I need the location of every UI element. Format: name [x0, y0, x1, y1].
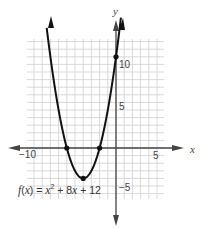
- point-root: [97, 145, 102, 150]
- y-tick-neg5: −5: [119, 183, 130, 193]
- curve-arrowheads: [48, 16, 125, 30]
- y-tick-5: 5: [119, 102, 125, 112]
- x-tick-5: 5: [153, 151, 159, 161]
- grid: [27, 39, 164, 199]
- x-axis-label: x: [190, 144, 195, 155]
- y-axis-label: y: [113, 6, 118, 17]
- point-y-intercept: [113, 54, 118, 59]
- point-vertex: [81, 176, 86, 181]
- graph: [0, 0, 209, 237]
- x-tick-neg10: −10: [19, 150, 36, 160]
- point-root: [64, 145, 69, 150]
- y-tick-10: 10: [119, 60, 130, 70]
- function-label: f(x) = x2 + 8x + 12: [18, 183, 101, 196]
